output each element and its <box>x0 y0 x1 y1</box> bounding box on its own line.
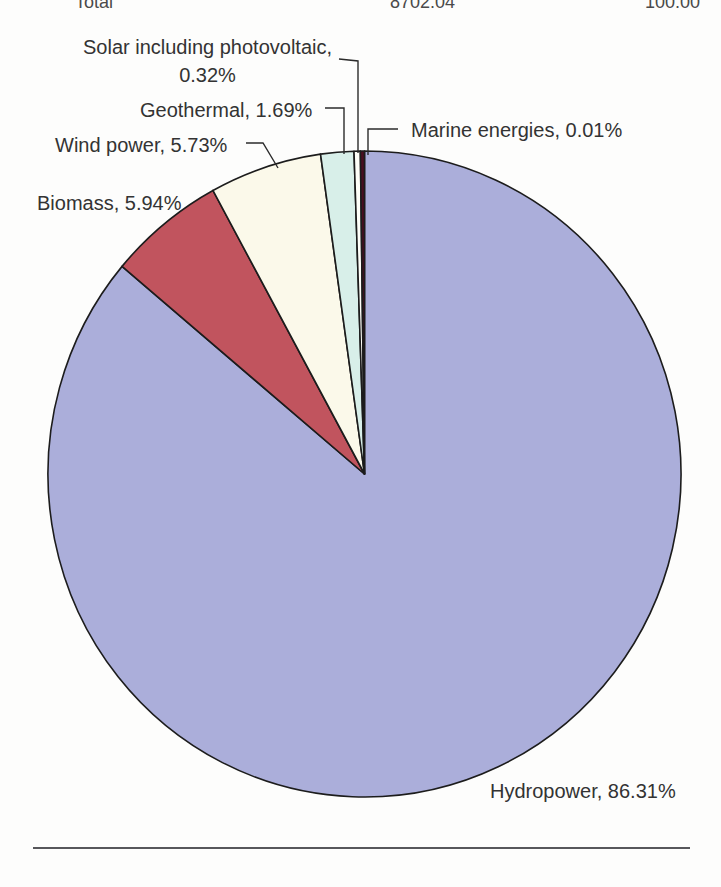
label-marine: Marine energies, 0.01% <box>411 117 622 143</box>
label-wind: Wind power, 5.73% <box>55 132 227 158</box>
label-solar-line1: Solar including photovoltaic, <box>70 33 345 61</box>
label-geothermal: Geothermal, 1.69% <box>140 97 312 123</box>
scanned-chart-page: Total 8702.04 100.00 Solar including pho… <box>0 0 721 887</box>
bottom-divider <box>33 847 690 849</box>
label-solar-line2: 0.32% <box>70 61 345 89</box>
leader-line-geothermal <box>325 108 344 154</box>
pie-slices <box>48 151 681 797</box>
label-biomass: Biomass, 5.94% <box>37 190 182 216</box>
label-solar: Solar including photovoltaic, 0.32% <box>70 33 345 89</box>
label-hydropower: Hydropower, 86.31% <box>490 778 676 804</box>
